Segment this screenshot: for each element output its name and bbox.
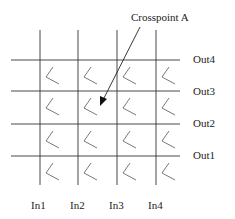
output-label-3: Out3 (193, 85, 215, 97)
crosspoint-label: Crosspoint A (131, 11, 189, 23)
input-label-2: In2 (70, 199, 85, 211)
crosspoint-switch-icon (162, 163, 175, 180)
input-label-4: In4 (148, 199, 163, 211)
crossbar-diagram (0, 0, 235, 219)
output-label-2: Out2 (193, 117, 215, 129)
crosspoint-switch-icon (162, 131, 175, 148)
grid-lines (11, 30, 180, 185)
crosspoint-switch-icon (84, 67, 97, 84)
crosspoint-switch-icon (162, 67, 175, 84)
crosspoint-switch-icon (162, 98, 175, 115)
input-label-3: In3 (109, 199, 124, 211)
crosspoint-switch-icon (84, 98, 97, 115)
output-label-4: Out4 (193, 53, 215, 65)
crosspoint-switch-icon (46, 131, 59, 148)
crosspoint-switch-icon (123, 67, 136, 84)
crosspoint-arrow (100, 27, 140, 106)
output-label-1: Out1 (193, 149, 215, 161)
crosspoint-switch-icon (123, 98, 136, 115)
crosspoint-switch-icon (84, 163, 97, 180)
crosspoint-switch-icon (123, 163, 136, 180)
crosspoint-switch-icon (46, 67, 59, 84)
crosspoint-switch-icon (123, 131, 136, 148)
crosspoint-switch-icon (84, 131, 97, 148)
crosspoint-switch-icon (46, 98, 59, 115)
input-label-1: In1 (31, 199, 46, 211)
crosspoint-switch-icon (46, 163, 59, 180)
